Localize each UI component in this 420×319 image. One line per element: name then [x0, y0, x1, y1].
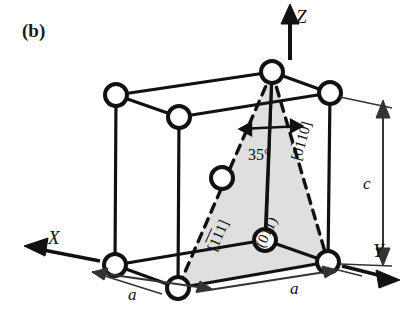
- angle-35-label: 35°: [248, 146, 270, 164]
- y-axis-arrow: [342, 266, 400, 288]
- atom-top-apex: [261, 61, 283, 83]
- x-axis-arrow: [24, 238, 100, 261]
- lattice-a-left-label: a: [128, 285, 137, 305]
- lattice-a-right-label: a: [290, 279, 299, 299]
- lattice-c-label: c: [363, 174, 371, 194]
- y-axis-label: Y: [373, 240, 384, 262]
- atom-top-right: [319, 82, 341, 104]
- atom-top-back-left: [105, 84, 127, 106]
- atom-top-back-center: [168, 106, 190, 128]
- crystal-unit-cell-figure: (b) Z X Y a a c 35° [0110] [111] (011): [0, 0, 420, 319]
- unit-cell-drawing: [0, 0, 420, 319]
- panel-label: (b): [22, 20, 45, 42]
- atom-bottom-back-mid: [167, 277, 189, 299]
- atom-mid-left-face: [211, 167, 233, 189]
- z-axis-label: Z: [296, 6, 307, 28]
- atom-bottom-left: [104, 254, 126, 276]
- x-axis-label: X: [48, 227, 60, 249]
